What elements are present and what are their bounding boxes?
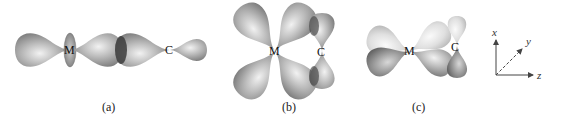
panel-caption-b: (b) [282, 100, 296, 114]
coordinate-axes: x y z [491, 26, 542, 81]
carbon-label: C [451, 40, 459, 54]
orbital-diagram: M C (a) M C (b) [0, 0, 561, 122]
carbon-label: C [165, 43, 173, 57]
panel-a: M C (a) [15, 33, 207, 114]
orbital-overlap [115, 36, 127, 64]
z-axis-label: z [536, 69, 542, 81]
orbital-overlap-upper [309, 16, 319, 36]
metal-label: M [269, 44, 280, 58]
y-axis [496, 49, 522, 75]
metal-label: M [64, 43, 75, 57]
y-axis-label: y [525, 35, 531, 47]
carbon-label: C [317, 45, 325, 59]
orbital-overlap-lower [309, 66, 319, 86]
panel-caption-a: (a) [102, 100, 115, 114]
metal-lobe-right [70, 33, 122, 67]
metal-lobe-left [15, 33, 70, 67]
carbon-lobe-back [170, 39, 207, 61]
panel-c: M C (c) [363, 16, 467, 114]
panel-caption-c: (c) [412, 100, 425, 114]
panel-b: M C (b) [227, 0, 334, 114]
x-axis-label: x [491, 26, 497, 38]
metal-label: M [404, 44, 415, 58]
